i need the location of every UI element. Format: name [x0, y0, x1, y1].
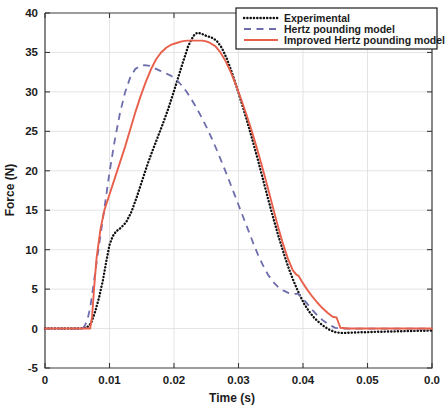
x-tick-label: 0: [42, 374, 48, 386]
x-tick-label: 0.02: [163, 374, 185, 386]
x-tick-label: 0.0: [424, 374, 440, 386]
chart-background: [0, 0, 445, 406]
x-tick-label: 0.03: [227, 374, 249, 386]
chart-svg: -50510152025303540 00.010.020.030.040.05…: [0, 0, 445, 406]
x-tick-label: 0.04: [292, 374, 315, 386]
y-tick-label: 35: [25, 46, 38, 58]
y-tick-label: -5: [28, 362, 39, 374]
y-tick-label: 5: [32, 283, 39, 295]
x-axis-title: Time (s): [209, 391, 255, 405]
x-tick-label: 0.01: [98, 374, 121, 386]
y-tick-label: 10: [25, 244, 38, 256]
y-tick-label: 40: [25, 7, 38, 19]
x-tick-label: 0.05: [356, 374, 379, 386]
y-axis-title: Force (N): [3, 164, 17, 217]
y-tick-label: 20: [25, 165, 38, 177]
y-tick-label: 0: [32, 323, 38, 335]
chart-legend: Experimental Hertz pounding model Improv…: [236, 8, 445, 49]
y-tick-label: 25: [25, 125, 38, 137]
y-tick-label: 30: [25, 86, 38, 98]
legend-label-improved: Improved Hertz pounding model: [284, 34, 445, 46]
force-time-chart: -50510152025303540 00.010.020.030.040.05…: [0, 0, 445, 406]
y-tick-label: 15: [25, 204, 38, 216]
